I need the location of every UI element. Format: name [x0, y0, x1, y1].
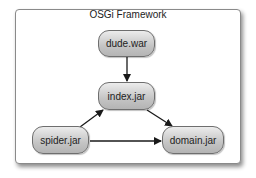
node-index-jar: index.jar: [98, 82, 155, 110]
node-domain-jar: domain.jar: [162, 126, 224, 154]
node-dude-war: dude.war: [98, 30, 155, 57]
node-label: index.jar: [108, 91, 146, 102]
node-spider-jar: spider.jar: [32, 126, 89, 154]
node-label: dude.war: [106, 38, 147, 49]
edge-spider-to-index: [80, 110, 103, 127]
node-label: domain.jar: [170, 135, 217, 146]
edge-index-to-domain: [147, 110, 172, 126]
node-label: spider.jar: [40, 135, 81, 146]
